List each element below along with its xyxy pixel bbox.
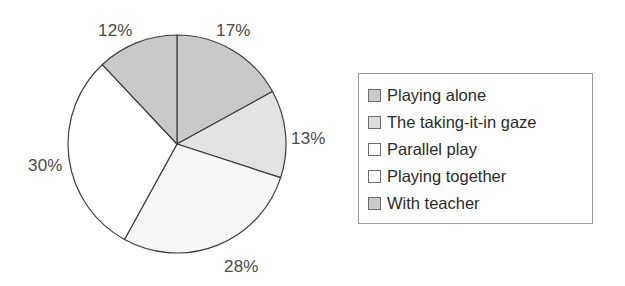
legend-item: Playing alone xyxy=(368,82,592,109)
legend-item-label: Parallel play xyxy=(387,141,477,158)
legend-item-label: Playing alone xyxy=(387,87,486,104)
pie-value-label-17: 17% xyxy=(216,22,251,39)
legend-swatch-icon xyxy=(368,197,381,210)
legend-item-label: With teacher xyxy=(387,195,480,212)
legend-swatch-icon xyxy=(368,89,381,102)
chart-legend: Playing aloneThe taking-it-in gazeParall… xyxy=(358,73,593,224)
pie-value-label-28: 28% xyxy=(224,258,259,275)
pie-chart-svg: Playing alone 17%The taking-it-in gaze 1… xyxy=(0,0,340,286)
legend-swatch-icon xyxy=(368,116,381,129)
legend-item: With teacher xyxy=(368,190,592,217)
legend-item: The taking-it-in gaze xyxy=(368,109,592,136)
pie-chart-figure: Playing alone 17%The taking-it-in gaze 1… xyxy=(0,0,625,286)
legend-item: Parallel play xyxy=(368,136,592,163)
pie-value-label-13: 13% xyxy=(291,130,326,147)
legend-item: Playing together xyxy=(368,163,592,190)
legend-item-label: The taking-it-in gaze xyxy=(387,114,537,131)
legend-swatch-icon xyxy=(368,143,381,156)
pie-chart-area: Playing alone 17%The taking-it-in gaze 1… xyxy=(0,0,340,286)
pie-value-label-30: 30% xyxy=(28,157,63,174)
legend-item-label: Playing together xyxy=(387,168,506,185)
pie-slice-group: Playing alone 17%The taking-it-in gaze 1… xyxy=(68,35,286,253)
pie-value-label-12: 12% xyxy=(98,22,133,39)
legend-swatch-icon xyxy=(368,170,381,183)
